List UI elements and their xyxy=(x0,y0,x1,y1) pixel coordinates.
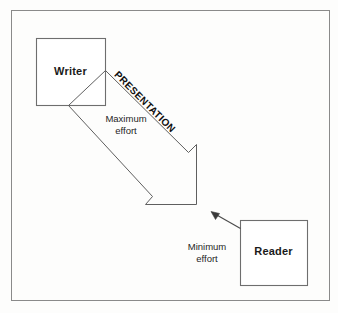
reader-label: Reader xyxy=(240,245,307,257)
minimum-effort-line-1: Minimum xyxy=(176,241,238,253)
writer-label: Writer xyxy=(36,65,105,77)
maximum-effort-label: Maximum effort xyxy=(95,113,157,136)
diagram-canvas: Writer Reader PRESENTATION Maximum effor… xyxy=(0,0,338,313)
reader-arrow-head xyxy=(211,212,220,220)
maximum-effort-line-1: Maximum xyxy=(95,113,157,125)
diagram-graphics xyxy=(0,0,338,313)
minimum-effort-label: Minimum effort xyxy=(176,241,238,264)
minimum-effort-line-2: effort xyxy=(176,253,238,265)
reader-arrow-line[interactable] xyxy=(215,214,241,229)
maximum-effort-line-2: effort xyxy=(95,125,157,137)
